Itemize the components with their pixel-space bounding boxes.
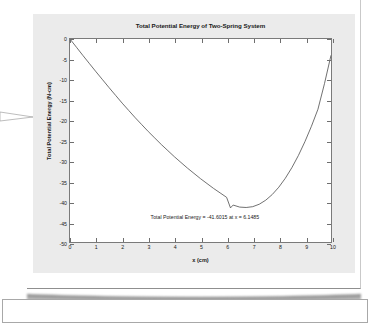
y-tick-mark bbox=[327, 224, 331, 225]
x-tick-mark bbox=[175, 39, 176, 43]
x-tick-mark bbox=[280, 238, 281, 242]
y-tick-mark bbox=[327, 39, 331, 40]
x-tick-mark bbox=[123, 238, 124, 242]
y-tick-mark bbox=[70, 121, 74, 122]
x-tick-label: 1 bbox=[95, 244, 98, 250]
matlab-figure: Total Potential Energy of Two-Spring Sys… bbox=[33, 14, 355, 273]
x-tick-label: 4 bbox=[174, 244, 177, 250]
y-tick-mark bbox=[327, 80, 331, 81]
pointer-arrow-icon bbox=[0, 110, 34, 124]
x-tick-mark bbox=[202, 238, 203, 242]
x-tick-label: 2 bbox=[121, 244, 124, 250]
x-tick-mark bbox=[228, 238, 229, 242]
y-tick-label: -25 bbox=[60, 139, 71, 145]
energy-curve bbox=[70, 39, 331, 242]
x-tick-mark bbox=[202, 39, 203, 43]
minimum-annotation: Total Potential Energy = -41.6015 at x =… bbox=[151, 214, 259, 220]
x-tick-mark bbox=[96, 238, 97, 242]
x-tick-mark bbox=[70, 238, 71, 242]
y-tick-mark bbox=[70, 80, 74, 81]
x-tick-mark bbox=[333, 39, 334, 43]
y-tick-label: -35 bbox=[60, 180, 71, 186]
y-tick-mark bbox=[70, 142, 74, 143]
y-tick-label: -5 bbox=[62, 57, 70, 63]
y-tick-label: -30 bbox=[60, 159, 71, 165]
y-tick-label: -10 bbox=[60, 77, 71, 83]
y-tick-mark bbox=[327, 121, 331, 122]
x-tick-label: 3 bbox=[147, 244, 150, 250]
y-tick-mark bbox=[70, 101, 74, 102]
y-tick-mark bbox=[327, 60, 331, 61]
x-tick-mark bbox=[307, 238, 308, 242]
y-tick-mark bbox=[70, 203, 74, 204]
x-tick-label: 9 bbox=[305, 244, 308, 250]
y-tick-label: -20 bbox=[60, 118, 71, 124]
x-axis-label: x (cm) bbox=[69, 257, 332, 263]
x-tick-mark bbox=[96, 39, 97, 43]
x-tick-mark bbox=[280, 39, 281, 43]
x-tick-mark bbox=[175, 238, 176, 242]
y-tick-mark bbox=[70, 224, 74, 225]
y-tick-label: -40 bbox=[60, 200, 71, 206]
plot-axes: 0-5-10-15-20-25-30-35-40-45-50 012345678… bbox=[69, 38, 332, 243]
x-tick-mark bbox=[254, 39, 255, 43]
y-tick-mark bbox=[327, 142, 331, 143]
x-tick-mark bbox=[254, 238, 255, 242]
y-axis-label: Total Potential Energy (N-cm) bbox=[46, 61, 52, 181]
x-tick-label: 7 bbox=[253, 244, 256, 250]
y-tick-mark bbox=[327, 162, 331, 163]
y-tick-mark bbox=[70, 162, 74, 163]
y-tick-mark bbox=[327, 203, 331, 204]
y-tick-label: -15 bbox=[60, 98, 71, 104]
x-tick-label: 5 bbox=[200, 244, 203, 250]
x-tick-mark bbox=[149, 39, 150, 43]
y-tick-mark bbox=[70, 60, 74, 61]
x-tick-mark bbox=[123, 39, 124, 43]
x-tick-mark bbox=[70, 39, 71, 43]
x-tick-mark bbox=[228, 39, 229, 43]
x-tick-mark bbox=[333, 238, 334, 242]
y-tick-mark bbox=[70, 183, 74, 184]
x-tick-mark bbox=[149, 238, 150, 242]
x-tick-label: 10 bbox=[330, 244, 336, 250]
chart-title: Total Potential Energy of Two-Spring Sys… bbox=[69, 22, 332, 29]
x-tick-label: 0 bbox=[69, 244, 72, 250]
x-tick-label: 8 bbox=[279, 244, 282, 250]
y-tick-mark bbox=[327, 183, 331, 184]
x-tick-mark bbox=[307, 39, 308, 43]
x-tick-label: 6 bbox=[226, 244, 229, 250]
y-tick-mark bbox=[327, 101, 331, 102]
lower-content-panel bbox=[2, 299, 368, 323]
left-pointer-arrow bbox=[0, 110, 34, 124]
y-tick-label: -45 bbox=[60, 221, 71, 227]
